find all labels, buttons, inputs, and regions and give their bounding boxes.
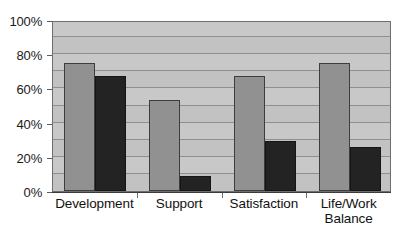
grid-band xyxy=(53,21,390,37)
bar xyxy=(95,76,126,191)
bar xyxy=(234,76,265,191)
bar xyxy=(319,63,350,191)
bar xyxy=(149,100,180,191)
y-tick-label: 20% xyxy=(17,151,42,164)
y-tick-label: 60% xyxy=(17,83,42,96)
bar xyxy=(64,63,95,191)
y-tick-label: 80% xyxy=(17,49,42,62)
x-category-label: Life/Work Balance xyxy=(306,196,391,226)
x-category-label: Support xyxy=(137,196,222,211)
y-axis: 0%20%40%60%80%100% xyxy=(0,0,48,232)
y-tick-label: 100% xyxy=(10,15,42,28)
bar-chart: 0%20%40%60%80%100% DevelopmentSupportSat… xyxy=(0,0,407,232)
x-tick-mark xyxy=(137,193,138,198)
x-axis: DevelopmentSupportSatisfactionLife/Work … xyxy=(52,196,391,232)
y-tick-label: 0% xyxy=(24,186,42,199)
x-category-label: Development xyxy=(52,196,137,211)
x-category-label: Satisfaction xyxy=(222,196,307,211)
gridline xyxy=(53,36,390,37)
plot-area xyxy=(52,21,391,192)
x-tick-mark xyxy=(306,193,307,198)
bar xyxy=(265,141,296,191)
y-tick-label: 40% xyxy=(17,117,42,130)
gridline xyxy=(53,53,390,54)
bar xyxy=(180,176,211,191)
x-tick-mark xyxy=(222,193,223,198)
bar xyxy=(350,147,381,191)
